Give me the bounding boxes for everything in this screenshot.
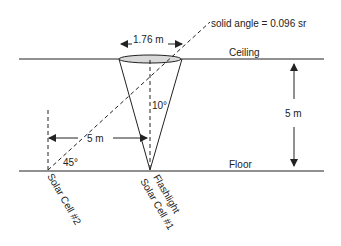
ceiling-label: Ceiling: [229, 47, 260, 58]
solid-angle-label: solid angle = 0.096 sr: [211, 18, 307, 29]
solar-cell-2-label: Solar Cell #2: [45, 172, 83, 227]
height-label: 5 m: [285, 108, 302, 119]
light-cone: [119, 55, 182, 170]
diagram-canvas: solid angle = 0.096 sr 1.76 m Ceiling Fl…: [0, 0, 341, 246]
distance-label: 5 m: [87, 133, 104, 144]
floor-label: Floor: [229, 159, 252, 170]
cone-angle-label: 10°: [152, 100, 167, 111]
incidence-angle-label: 45°: [63, 157, 78, 168]
diameter-label: 1.76 m: [133, 34, 164, 45]
